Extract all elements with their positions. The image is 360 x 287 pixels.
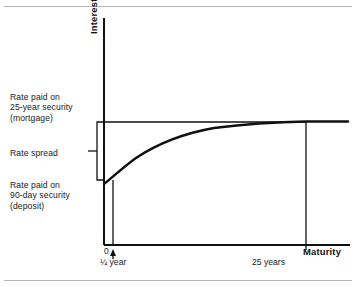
annotation-rate-spread: Rate spread — [10, 148, 58, 158]
y-axis-title: Interest rate — [88, 0, 99, 34]
x-axis-title: Maturity — [303, 246, 341, 257]
chart-plot-area — [0, 0, 360, 287]
figure-container: Interest rate Maturity Rate paid on 25-y… — [0, 0, 360, 287]
annotation-bottom-rate: Rate paid on 90-day security (deposit) — [10, 180, 70, 211]
rate-spread-bracket — [97, 122, 103, 180]
yield-curve-line — [104, 122, 348, 185]
x-axis-tick-label-25-years: 25 years — [252, 257, 285, 267]
annotation-top-rate: Rate paid on 25-year security (mortgage) — [10, 92, 73, 123]
x-axis-tick-label-quarter-year: ¼ year — [100, 257, 126, 267]
x-axis-origin-label: 0 — [104, 246, 109, 256]
